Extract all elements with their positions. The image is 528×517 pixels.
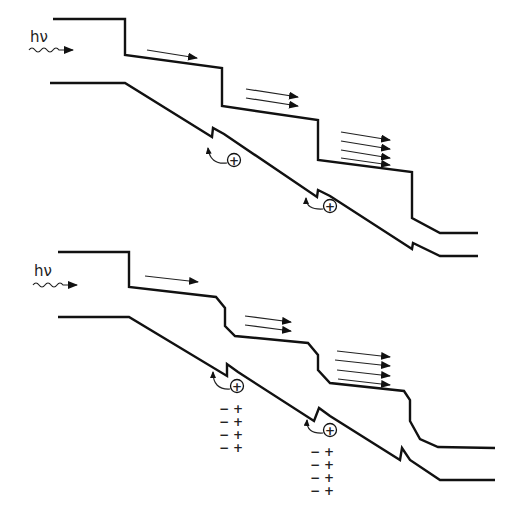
svg-text:+: +: [324, 458, 334, 472]
hole-1: +: [208, 148, 241, 168]
conduction-band: [53, 19, 478, 233]
svg-text:−: −: [310, 458, 320, 472]
svg-text:−: −: [310, 484, 320, 498]
valence-band: [58, 317, 495, 480]
svg-text:+: +: [324, 484, 334, 498]
svg-text:+: +: [325, 200, 335, 214]
svg-text:−: −: [219, 402, 229, 416]
charge-dipole-2: − + − + − + − +: [310, 445, 334, 498]
charge-dipole-1: − + − + − + − +: [219, 402, 243, 455]
svg-text:+: +: [325, 424, 335, 438]
svg-text:+: +: [233, 428, 243, 442]
svg-text:−: −: [310, 471, 320, 485]
bottom-panel: hν + + −: [33, 252, 495, 498]
svg-text:−: −: [219, 441, 229, 455]
electron-arrows-4: [335, 351, 390, 385]
hole-2: +: [306, 198, 337, 214]
svg-text:−: −: [310, 445, 320, 459]
svg-text:+: +: [233, 441, 243, 455]
valence-band: [50, 83, 478, 256]
electron-arrows-1: [147, 50, 197, 58]
electron-arrows-4: [341, 132, 390, 165]
top-panel: hν + +: [29, 19, 478, 256]
svg-text:+: +: [229, 154, 239, 168]
hole-2: +: [307, 420, 337, 438]
svg-text:+: +: [324, 445, 334, 459]
svg-text:+: +: [233, 415, 243, 429]
electron-arrows-2: [245, 316, 291, 331]
photon-label: hν: [30, 28, 48, 46]
photon-wave-icon: [33, 283, 77, 287]
svg-text:−: −: [219, 415, 229, 429]
conduction-band: [58, 252, 495, 448]
photon-wave-icon: [29, 48, 73, 52]
svg-text:−: −: [219, 428, 229, 442]
svg-text:+: +: [324, 471, 334, 485]
band-diagram: hν + + hν: [0, 0, 528, 517]
electron-arrows-1: [145, 276, 198, 282]
photon-label: hν: [34, 262, 52, 280]
electron-arrows-2: [246, 89, 298, 106]
svg-text:+: +: [233, 402, 243, 416]
svg-text:+: +: [232, 380, 242, 394]
hole-1: +: [213, 372, 244, 394]
